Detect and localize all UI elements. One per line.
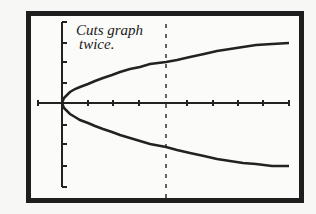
caption-line-2: twice. (76, 37, 143, 51)
upper-branch-curve (62, 43, 289, 103)
lower-branch-curve (62, 103, 289, 166)
annotation-caption: Cuts graph twice. (76, 23, 143, 51)
caption-line-1: Cuts graph (76, 23, 143, 37)
graph-plot (0, 0, 316, 214)
